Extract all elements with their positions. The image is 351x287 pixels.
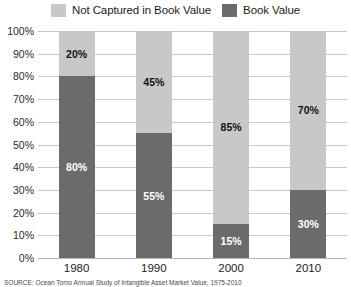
x-axis-tick-label: 2010 (270, 261, 347, 277)
bar-segment-label: 15% (221, 235, 242, 247)
stacked-bar-chart: Not Captured in Book Value Book Value 0%… (0, 0, 351, 287)
y-axis-tick-label: 100% (7, 26, 34, 37)
y-axis-tick-label: 20% (13, 207, 34, 218)
stacked-bar[interactable]: 70%30% (290, 31, 326, 258)
legend-label-not-captured: Not Captured in Book Value (72, 4, 211, 17)
stacked-bar[interactable]: 85%15% (213, 31, 249, 258)
y-axis-tick-label: 40% (13, 162, 34, 173)
stacked-bar[interactable]: 20%80% (59, 31, 95, 258)
bar-segment-label: 55% (143, 190, 164, 202)
bar-segment[interactable]: 80% (59, 76, 95, 258)
y-axis-labels: 0%10%20%30%40%50%60%70%80%90%100% (0, 31, 34, 258)
y-axis-tick-label: 60% (13, 116, 34, 127)
y-axis-tick-label: 80% (13, 71, 34, 82)
bar-segment[interactable]: 45% (136, 31, 172, 133)
legend-swatch-not-captured (51, 4, 66, 17)
y-axis-tick-label: 0% (19, 253, 34, 264)
x-axis-tick-label: 1980 (38, 261, 115, 277)
bar-segment-label: 30% (298, 218, 319, 230)
y-axis-tick-label: 10% (13, 230, 34, 241)
bar-segment[interactable]: 20% (59, 31, 95, 76)
bar-slot: 85%15% (193, 31, 270, 258)
x-axis-tick-label: 1990 (115, 261, 192, 277)
source-footnote: SOURCE: Ocean Tomo Annual Study of Intan… (4, 279, 347, 287)
bar-segment[interactable]: 55% (136, 133, 172, 258)
x-axis-labels: 1980199020002010 (38, 261, 347, 277)
stacked-bar[interactable]: 45%55% (136, 31, 172, 258)
y-axis-tick-label: 90% (13, 48, 34, 59)
y-axis-tick-label: 50% (13, 139, 34, 150)
bar-segment-label: 45% (143, 76, 164, 88)
bar-segment[interactable]: 30% (290, 190, 326, 258)
legend-item-book-value: Book Value (222, 4, 300, 17)
bar-group: 20%80%45%55%85%15%70%30% (38, 31, 347, 258)
bar-segment-label: 70% (298, 104, 319, 116)
bar-slot: 45%55% (115, 31, 192, 258)
bar-segment-label: 80% (66, 161, 87, 173)
plot-area: 20%80%45%55%85%15%70%30% (38, 31, 347, 258)
bar-segment[interactable]: 15% (213, 224, 249, 258)
legend-label-book-value: Book Value (243, 4, 300, 17)
bar-slot: 20%80% (38, 31, 115, 258)
x-axis-tick-label: 2000 (193, 261, 270, 277)
bar-segment-label: 20% (66, 48, 87, 60)
axis-baseline (38, 258, 347, 259)
legend-swatch-book-value (222, 4, 237, 17)
bar-segment[interactable]: 70% (290, 31, 326, 190)
bar-segment-label: 85% (221, 121, 242, 133)
y-axis-tick-label: 30% (13, 184, 34, 195)
bar-segment[interactable]: 85% (213, 31, 249, 224)
y-axis-tick-label: 70% (13, 94, 34, 105)
chart-legend: Not Captured in Book Value Book Value (0, 1, 351, 19)
legend-item-not-captured: Not Captured in Book Value (51, 4, 211, 17)
bar-slot: 70%30% (270, 31, 347, 258)
